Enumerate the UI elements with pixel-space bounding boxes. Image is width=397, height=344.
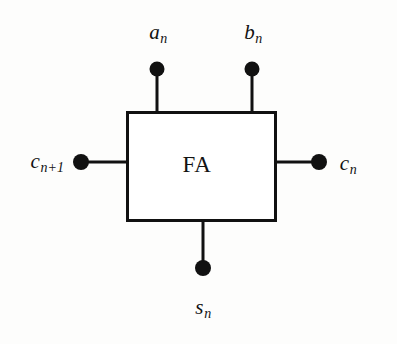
terminal-label-c-in: cn+1 — [31, 151, 64, 172]
terminal-label-c-out-sub: n — [350, 162, 357, 177]
terminal-label-s: sn — [195, 297, 210, 318]
terminal-dot-c-out — [311, 154, 327, 170]
terminal-label-s-sub: n — [204, 306, 211, 321]
terminal-label-c-out-base: c — [340, 151, 350, 175]
terminal-label-b-sub: n — [255, 31, 262, 46]
fa-block-label: FA — [183, 153, 212, 176]
terminal-dot-s — [195, 260, 211, 276]
terminal-label-a: an — [149, 22, 167, 43]
terminal-label-a-base: a — [149, 20, 160, 44]
terminal-label-b-base: b — [244, 20, 255, 44]
terminal-label-c-in-base: c — [31, 149, 41, 173]
terminal-dot-c-in — [73, 154, 89, 170]
terminal-dot-a — [150, 62, 165, 77]
terminal-label-a-sub: n — [160, 31, 167, 46]
terminal-label-c-in-sub: n+1 — [41, 160, 64, 175]
terminal-label-c-out: cn — [340, 153, 357, 174]
terminal-label-b: bn — [244, 22, 262, 43]
terminal-label-s-base: s — [195, 295, 203, 319]
terminal-dot-b — [245, 62, 260, 77]
diagram-canvas: FA an bn cn+1 cn sn — [0, 0, 397, 344]
